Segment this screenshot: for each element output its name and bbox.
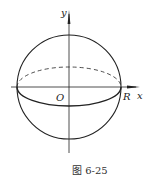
radius-label: R	[122, 91, 131, 102]
origin-label: O	[56, 92, 64, 103]
y-axis-label: y	[60, 7, 67, 18]
y-axis-arrow-icon	[68, 10, 71, 24]
x-axis-arrow-icon	[127, 86, 140, 89]
figure-caption: 图 6-25	[72, 165, 108, 176]
sphere-diagram: y x O R 图 6-25	[0, 0, 152, 184]
x-axis-label: x	[137, 90, 143, 101]
